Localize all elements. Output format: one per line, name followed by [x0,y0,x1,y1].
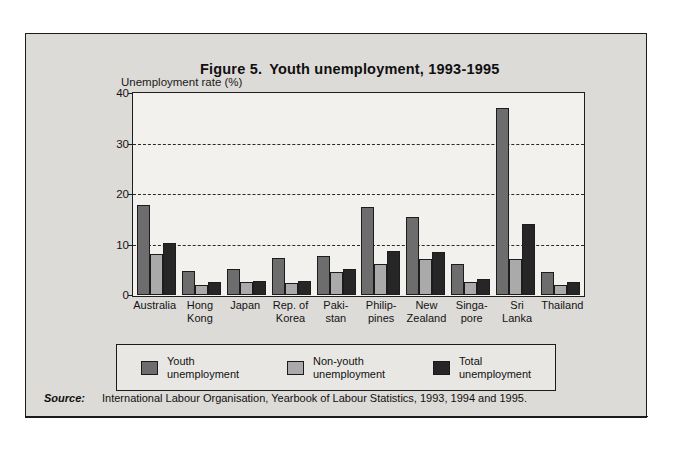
bar-group-new-zealand [403,93,448,295]
x-axis-labels: AustraliaHongKongJapanRep. ofKoreaPaki-s… [109,299,585,324]
bar-youth-singapore[interactable] [451,264,464,294]
legend-label-line: unemployment [167,368,239,381]
source-text: International Labour Organisation, Yearb… [102,392,527,404]
bar-youth-thailand[interactable] [541,272,554,295]
bar-youth-pakistan[interactable] [317,256,330,294]
x-axis-label-new-zealand: NewZealand [404,299,449,324]
bar-total-singapore[interactable] [477,279,490,294]
bar-group-hong-kong [179,93,224,295]
legend-label-line: unemployment [313,368,385,381]
x-axis-label-line: Thailand [540,299,585,312]
legend-item-nonyouth[interactable]: Non-youthunemployment [263,355,409,380]
bar-group-singapore [448,93,493,295]
x-axis-label-pakistan: Paki-stan [313,299,358,324]
x-axis-label-line: Hong [177,299,222,312]
legend-item-total[interactable]: Totalunemployment [409,355,555,380]
x-axis-label-philippines: Philip-pines [358,299,403,324]
bar-nonyouth-japan[interactable] [240,282,253,294]
figure-title: Figure 5.Youth unemployment, 1993-1995 [26,45,648,93]
bar-total-philippines[interactable] [387,251,400,294]
x-axis-label-line: Sri [494,299,539,312]
bar-group-rep-of-korea [269,93,314,295]
legend-label-line: unemployment [459,368,531,381]
x-axis-label-singapore: Singa-pore [449,299,494,324]
x-axis-label-row: AustraliaHongKongJapanRep. ofKoreaPaki-s… [132,299,585,324]
x-axis-label-line: New [404,299,449,312]
x-axis-label-line: stan [313,312,358,325]
source-row: Source: International Labour Organisatio… [26,392,648,404]
x-axis-label-line: Japan [223,299,268,312]
bar-youth-new-zealand[interactable] [406,217,419,295]
bar-total-thailand[interactable] [567,282,580,294]
bar-group-japan [224,93,269,295]
x-axis-label-australia: Australia [132,299,177,324]
bar-group-pakistan [314,93,359,295]
bar-groups [135,93,583,295]
legend-label-line: Total [459,355,531,368]
x-axis-label-line: Kong [177,312,222,325]
legend-swatch-youth [141,361,158,375]
y-tick-label-20: 20 [116,188,129,200]
bar-total-rep-of-korea[interactable] [298,281,311,295]
legend-label-total: Totalunemployment [459,355,531,380]
figure-title-main: Youth unemployment, 1993-1995 [269,61,499,77]
bar-nonyouth-singapore[interactable] [464,282,477,295]
x-axis-label-thailand: Thailand [540,299,585,324]
bar-total-hong-kong[interactable] [208,282,221,294]
legend-label-line: Non-youth [313,355,385,368]
bar-total-pakistan[interactable] [343,269,356,294]
bar-nonyouth-hong-kong[interactable] [195,285,208,295]
x-axis-label-line: Paki- [313,299,358,312]
y-tick-label-30: 30 [116,138,129,150]
bar-total-sri-lanka[interactable] [522,224,535,295]
bar-nonyouth-new-zealand[interactable] [419,259,432,294]
y-tick-label-40: 40 [116,87,129,99]
plot-wrapper: 010203040 [109,92,585,297]
bar-youth-philippines[interactable] [361,207,374,294]
x-axis-label-rep-of-korea: Rep. ofKorea [268,299,313,324]
x-axis-label-line: Australia [132,299,177,312]
source-divider [26,416,648,417]
chart-legend: YouthunemploymentNon-youthunemploymentTo… [116,344,556,391]
y-tick-label-10: 10 [116,239,129,251]
x-axis-label-hong-kong: HongKong [177,299,222,324]
bar-nonyouth-thailand[interactable] [554,285,567,295]
x-axis-label-line: Korea [268,312,313,325]
bar-youth-sri-lanka[interactable] [496,108,509,295]
bar-youth-rep-of-korea[interactable] [272,258,285,294]
y-axis-caption: Unemployment rate (%) [121,76,242,88]
x-axis-spacer [109,299,132,324]
x-axis-label-line: Singa- [449,299,494,312]
x-axis-label-line: Philip- [358,299,403,312]
figure-page: Figure 5.Youth unemployment, 1993-1995 U… [0,0,674,450]
legend-swatch-nonyouth [287,361,304,375]
legend-label-youth: Youthunemployment [167,355,239,380]
bar-nonyouth-pakistan[interactable] [330,272,343,294]
x-axis-label-line: pore [449,312,494,325]
x-axis-label-line: pines [358,312,403,325]
legend-label-line: Youth [167,355,239,368]
x-axis-label-line: Zealand [404,312,449,325]
bar-youth-hong-kong[interactable] [182,271,195,295]
figure-title-prefix: Figure 5. [200,61,262,77]
bar-nonyouth-philippines[interactable] [374,264,387,294]
bar-group-sri-lanka [493,93,538,295]
source-label: Source: [44,392,102,404]
bar-group-thailand [538,93,583,295]
legend-label-nonyouth: Non-youthunemployment [313,355,385,380]
figure-frame: Figure 5.Youth unemployment, 1993-1995 U… [25,33,647,418]
bar-group-philippines [358,93,403,295]
x-axis-label-line: Rep. of [268,299,313,312]
bar-nonyouth-sri-lanka[interactable] [509,259,522,295]
x-axis-label-japan: Japan [223,299,268,324]
x-axis-label-line: Lanka [494,312,539,325]
legend-item-youth[interactable]: Youthunemployment [117,355,263,380]
bar-total-australia[interactable] [163,243,176,295]
bar-nonyouth-australia[interactable] [150,254,163,294]
bar-total-new-zealand[interactable] [432,252,445,294]
bar-total-japan[interactable] [253,281,266,294]
bar-youth-australia[interactable] [137,205,150,295]
x-axis-label-sri-lanka: SriLanka [494,299,539,324]
bar-nonyouth-rep-of-korea[interactable] [285,283,298,294]
bar-youth-japan[interactable] [227,269,240,294]
